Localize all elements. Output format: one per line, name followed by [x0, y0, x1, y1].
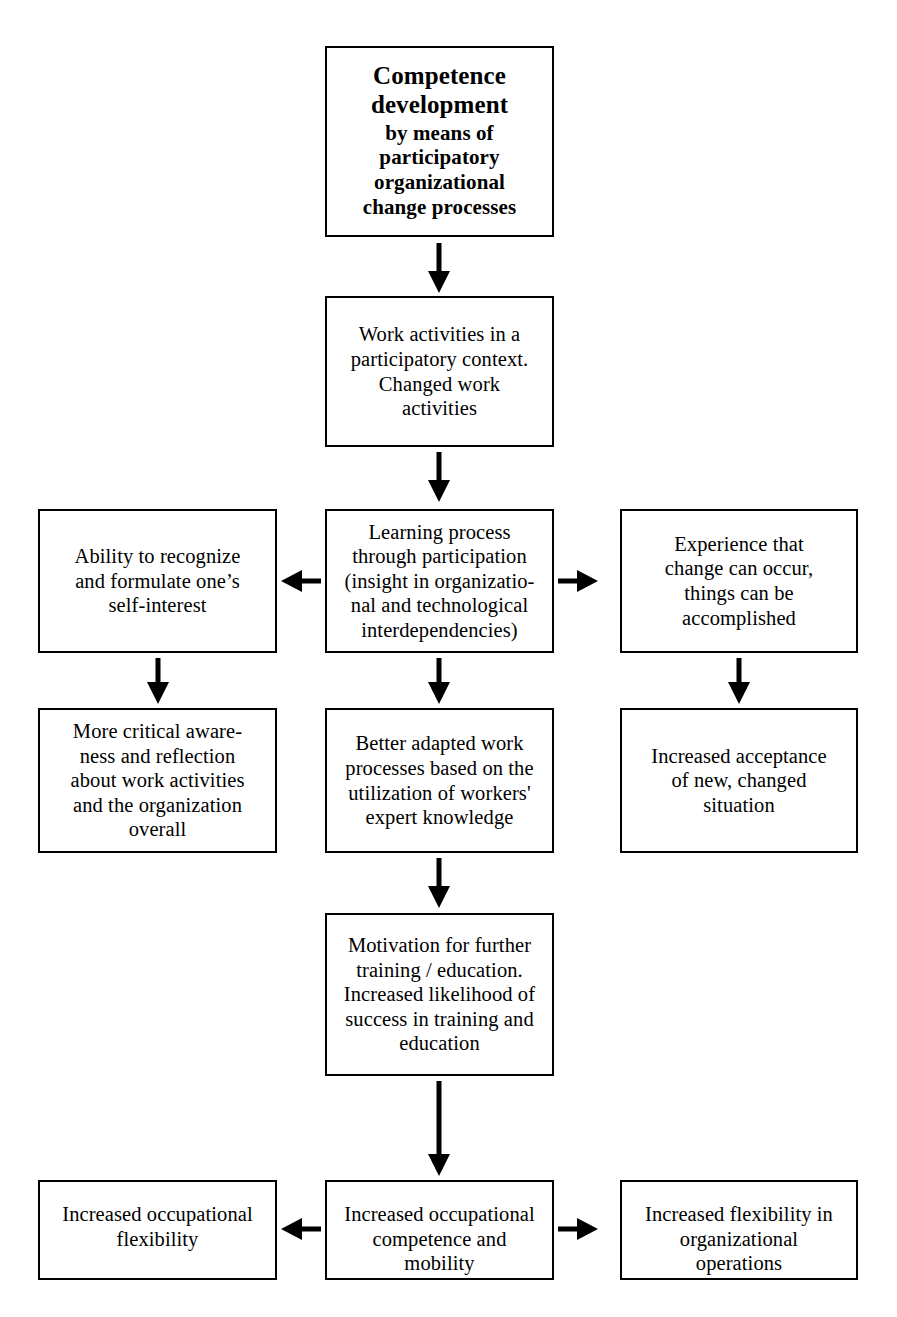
flowchart-canvas: Competence development by means of parti… — [0, 0, 897, 1317]
arrow-head — [281, 1218, 302, 1240]
arrow-motivation-to-occupational-competence — [425, 1081, 453, 1176]
arrow-ability-to-critical-awareness — [144, 658, 172, 704]
arrow-head — [428, 480, 450, 502]
arrow-better-adapted-to-motivation — [425, 858, 453, 908]
node-ability-to-recognize-text: Ability to recognize and formulate one’s… — [40, 544, 275, 618]
arrow-competence-to-organizational-flexibility — [558, 1215, 598, 1243]
node-better-adapted-work-processes-text: Better adapted work processes based on t… — [327, 731, 552, 829]
node-motivation-for-training: Motivation for further training / educat… — [325, 913, 554, 1076]
node-increased-acceptance: Increased acceptance of new, changed sit… — [620, 708, 858, 853]
node-ability-to-recognize: Ability to recognize and formulate one’s… — [38, 509, 277, 653]
arrow-head — [147, 682, 169, 704]
arrow-head — [728, 682, 750, 704]
node-better-adapted-work-processes: Better adapted work processes based on t… — [325, 708, 554, 853]
node-increased-flexibility-organizational-text: Increased flexibility in organizational … — [622, 1202, 856, 1276]
arrow-stem — [558, 579, 578, 584]
arrow-learning-process-to-ability — [281, 567, 321, 595]
arrow-learning-process-to-better-adapted — [425, 658, 453, 704]
node-more-critical-awareness-text: More critical aware- ness and reflection… — [40, 719, 275, 842]
node-motivation-for-training-text: Motivation for further training / educat… — [327, 933, 552, 1056]
node-increased-occupational-competence: Increased occupational competence and mo… — [325, 1180, 554, 1280]
node-increased-acceptance-text: Increased acceptance of new, changed sit… — [622, 744, 856, 818]
node-learning-process: Learning process through participation (… — [325, 509, 554, 653]
arrow-work-activities-to-learning-process — [425, 452, 453, 502]
arrow-stem — [558, 1227, 578, 1232]
node-increased-flexibility-organizational: Increased flexibility in organizational … — [620, 1180, 858, 1280]
node-increased-occupational-flexibility-text: Increased occupational flexibility — [40, 1202, 275, 1251]
node-competence-development: Competence development by means of parti… — [325, 46, 554, 237]
arrow-competence-to-occupational-flexibility — [281, 1215, 321, 1243]
arrow-stem — [437, 1081, 442, 1155]
arrow-head — [577, 570, 598, 592]
node-experience-that-change-can-occur-text: Experience that change can occur, things… — [622, 532, 856, 630]
node-experience-that-change-can-occur: Experience that change can occur, things… — [620, 509, 858, 653]
node-increased-occupational-flexibility: Increased occupational flexibility — [38, 1180, 277, 1280]
arrow-head — [428, 1154, 450, 1176]
arrow-learning-process-to-experience — [558, 567, 598, 595]
node-competence-development-subtext: by means of participatory organizational… — [327, 121, 552, 221]
arrow-stem — [301, 1227, 321, 1232]
node-learning-process-text: Learning process through participation (… — [327, 520, 552, 643]
node-more-critical-awareness: More critical aware- ness and reflection… — [38, 708, 277, 853]
node-increased-occupational-competence-text: Increased occupational competence and mo… — [327, 1202, 552, 1276]
arrow-head — [428, 271, 450, 293]
arrow-head — [577, 1218, 598, 1240]
node-competence-development-heading: Competence development — [327, 61, 552, 120]
node-work-activities-text: Work activities in a participatory conte… — [327, 322, 552, 420]
arrow-head — [428, 886, 450, 908]
arrow-stem — [301, 579, 321, 584]
node-work-activities: Work activities in a participatory conte… — [325, 296, 554, 447]
arrow-head — [428, 682, 450, 704]
arrow-root-to-work-activities — [425, 243, 453, 293]
arrow-experience-to-increased-acceptance — [725, 658, 753, 704]
arrow-head — [281, 570, 302, 592]
